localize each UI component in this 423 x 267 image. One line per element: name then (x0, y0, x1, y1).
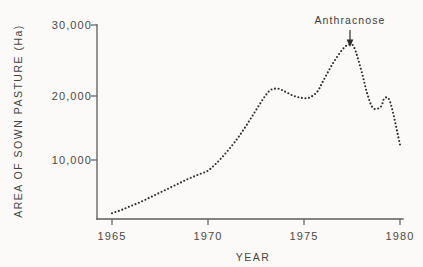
x-tick-label-1965: 1965 (98, 230, 127, 242)
y-tick-label-20000: 20,000 (52, 90, 92, 102)
data-series-sown-pasture (111, 43, 401, 214)
y-tick-label-10000: 10,000 (52, 154, 92, 166)
chart-figure: AREA OF SOWN PASTURE (Ha) 30,000 20,000 … (0, 0, 423, 267)
y-tick-label-30000: 30,000 (52, 19, 92, 31)
x-axis-title: YEAR (236, 251, 271, 263)
chart-plot-area: AREA OF SOWN PASTURE (Ha) 30,000 20,000 … (0, 0, 423, 267)
y-axis-title: AREA OF SOWN PASTURE (Ha) (12, 24, 24, 218)
x-tick-label-1970: 1970 (194, 230, 223, 242)
annotation-label-anthracnose: Anthracnose (314, 14, 385, 26)
x-tick-label-1975: 1975 (290, 230, 319, 242)
x-tick-label-1980: 1980 (386, 230, 415, 242)
